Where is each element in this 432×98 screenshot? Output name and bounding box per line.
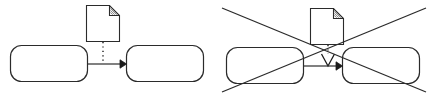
document-data-object-icon [311, 9, 344, 45]
rounded-task-right [343, 48, 420, 84]
diagram-svg [0, 0, 432, 98]
rounded-task-left [11, 46, 88, 82]
rounded-task-right [127, 46, 204, 82]
diagram-canvas [0, 0, 432, 98]
rounded-task-left [227, 48, 304, 84]
document-data-object-icon [87, 6, 120, 42]
